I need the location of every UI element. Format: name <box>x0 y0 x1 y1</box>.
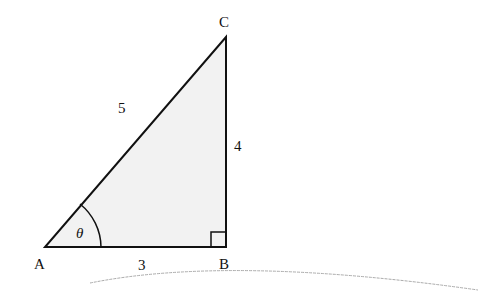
side-label-ac: 5 <box>118 101 126 116</box>
side-label-ab: 3 <box>138 258 146 273</box>
triangle <box>45 37 226 247</box>
side-label-bc: 4 <box>234 139 242 154</box>
vertex-label-c: C <box>219 15 229 30</box>
vertex-label-a: A <box>34 257 45 272</box>
curve-line <box>90 271 478 290</box>
vertex-label-b: B <box>219 257 229 272</box>
angle-label-theta: θ <box>76 226 83 241</box>
triangle-diagram <box>0 0 484 298</box>
